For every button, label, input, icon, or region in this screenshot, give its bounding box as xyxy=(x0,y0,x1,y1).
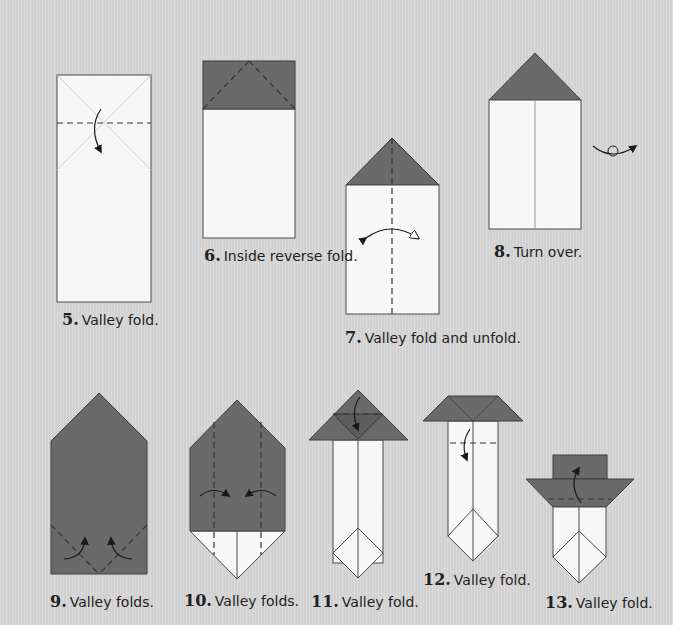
step-number: 10. xyxy=(184,591,212,610)
step-11-diagram xyxy=(309,390,408,578)
step-5-caption: 5.Valley fold. xyxy=(62,310,159,329)
step-10-diagram xyxy=(190,400,285,579)
step-number: 12. xyxy=(423,570,451,589)
step-7-diagram xyxy=(346,138,439,314)
step-number: 9. xyxy=(50,592,67,611)
step-13-diagram xyxy=(526,455,634,583)
paper-square-5 xyxy=(57,75,151,302)
step-8-diagram xyxy=(489,53,636,229)
step-text: Valley folds. xyxy=(215,593,299,609)
step-text: Valley fold. xyxy=(576,595,653,611)
step-9-caption: 9.Valley folds. xyxy=(50,592,154,611)
step-8-caption: 8.Turn over. xyxy=(494,242,582,261)
step-text: Valley fold. xyxy=(454,572,531,588)
step-6-diagram xyxy=(203,61,295,238)
step-number: 11. xyxy=(311,592,339,611)
step-text: Valley fold. xyxy=(82,312,159,328)
step-13-caption: 13.Valley fold. xyxy=(545,593,653,612)
step-11-caption: 11.Valley fold. xyxy=(311,592,419,611)
step-12-caption: 12.Valley fold. xyxy=(423,570,531,589)
step-text: Valley fold. xyxy=(342,594,419,610)
step-12-diagram xyxy=(423,396,523,561)
step-text: Valley folds. xyxy=(70,594,154,610)
step-text: Valley fold and unfold. xyxy=(365,330,521,346)
step-number: 8. xyxy=(494,242,511,261)
step-6-caption: 6.Inside reverse fold. xyxy=(204,246,358,265)
step-7-caption: 7.Valley fold and unfold. xyxy=(345,328,521,347)
step-number: 7. xyxy=(345,328,362,347)
step-10-caption: 10.Valley folds. xyxy=(184,591,299,610)
step-9-diagram xyxy=(51,393,147,574)
turn-over-icon xyxy=(593,146,636,156)
step-text: Inside reverse fold. xyxy=(224,248,358,264)
step-5-diagram xyxy=(57,75,151,302)
step-text: Turn over. xyxy=(514,244,583,260)
step-number: 6. xyxy=(204,246,221,265)
step-number: 13. xyxy=(545,593,573,612)
step-number: 5. xyxy=(62,310,79,329)
